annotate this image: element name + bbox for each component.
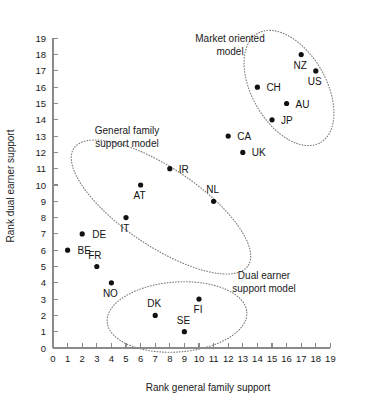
data-point-au bbox=[284, 101, 289, 106]
cluster-label-general-family-support: General familysupport model bbox=[95, 125, 159, 149]
axis-group bbox=[53, 38, 330, 348]
y-tick-label: 6 bbox=[41, 245, 46, 256]
y-tick-label: 3 bbox=[41, 294, 46, 305]
y-tick-label: 18 bbox=[35, 49, 46, 60]
data-point-label-no: NO bbox=[103, 288, 118, 299]
data-point-fi bbox=[196, 297, 201, 302]
data-point-ir bbox=[167, 166, 172, 171]
data-point-nl bbox=[211, 199, 216, 204]
x-axis-title: Rank general family support bbox=[146, 382, 271, 393]
data-point-label-au: AU bbox=[296, 99, 310, 110]
y-tick-label: 11 bbox=[36, 163, 46, 174]
y-tick-label: 0 bbox=[41, 343, 46, 354]
data-point-ca bbox=[226, 134, 231, 139]
data-point-label-fr: FR bbox=[88, 250, 101, 261]
y-tick-label: 17 bbox=[35, 65, 46, 76]
y-tick-label: 1 bbox=[41, 326, 46, 337]
y-tick-label: 7 bbox=[41, 228, 46, 239]
data-point-nz bbox=[299, 52, 304, 57]
x-tick-label: 14 bbox=[252, 353, 263, 364]
cluster-label-market-oriented: Market orientedmodel bbox=[195, 33, 264, 57]
y-tick-label: 10 bbox=[35, 180, 46, 191]
x-tick-label: 11 bbox=[209, 353, 219, 364]
y-tick-label: 13 bbox=[35, 131, 46, 142]
x-tick-label: 2 bbox=[80, 353, 85, 364]
y-tick-label: 19 bbox=[35, 33, 46, 44]
y-tick-label: 16 bbox=[35, 82, 46, 93]
data-point-fr bbox=[94, 264, 99, 269]
data-point-label-jp: JP bbox=[281, 115, 293, 126]
x-tick-label: 3 bbox=[94, 353, 99, 364]
cluster-label-dual-earner-support: Dual earnersupport model bbox=[232, 270, 295, 294]
x-tick-label: 1 bbox=[65, 353, 70, 364]
data-point-be bbox=[65, 248, 70, 253]
data-point-label-se: SE bbox=[177, 315, 191, 326]
data-point-de bbox=[80, 231, 85, 236]
x-tick-label: 6 bbox=[138, 353, 143, 364]
y-tick-label: 2 bbox=[41, 310, 46, 321]
x-tick-label: 13 bbox=[238, 353, 249, 364]
data-point-label-nz: NZ bbox=[294, 60, 307, 71]
data-point-label-ir: IR bbox=[179, 164, 189, 175]
data-point-label-ca: CA bbox=[237, 131, 251, 142]
x-tick-label: 19 bbox=[325, 353, 336, 364]
x-tick-label: 9 bbox=[182, 353, 187, 364]
data-point-se bbox=[182, 329, 187, 334]
data-point-label-nl: NL bbox=[206, 184, 219, 195]
y-tick-label: 14 bbox=[35, 114, 46, 125]
y-tick-label: 15 bbox=[35, 98, 46, 109]
data-point-label-it: IT bbox=[121, 223, 130, 234]
x-tick-label: 0 bbox=[50, 353, 55, 364]
x-tick-label: 12 bbox=[223, 353, 234, 364]
data-point-us bbox=[313, 68, 318, 73]
data-point-dk bbox=[153, 313, 158, 318]
data-point-uk bbox=[240, 150, 245, 155]
x-tick-label: 10 bbox=[194, 353, 205, 364]
plot-canvas: 0123456789101112131415161718190123456789… bbox=[0, 0, 367, 404]
x-tick-label: 17 bbox=[296, 353, 307, 364]
data-point-label-ch: CH bbox=[266, 82, 280, 93]
x-tick-label: 7 bbox=[153, 353, 158, 364]
x-tick-label: 8 bbox=[167, 353, 172, 364]
data-point-at bbox=[138, 182, 143, 187]
data-point-label-us: US bbox=[308, 76, 322, 87]
y-tick-label: 4 bbox=[41, 277, 46, 288]
data-point-it bbox=[123, 215, 128, 220]
data-point-label-fi: FI bbox=[194, 304, 203, 315]
data-point-label-de: DE bbox=[92, 229, 106, 240]
data-point-no bbox=[109, 280, 114, 285]
data-point-jp bbox=[269, 117, 274, 122]
x-tick-label: 15 bbox=[267, 353, 278, 364]
data-point-label-at: AT bbox=[134, 190, 146, 201]
data-point-ch bbox=[255, 85, 260, 90]
y-tick-label: 9 bbox=[41, 196, 46, 207]
x-tick-label: 4 bbox=[109, 353, 114, 364]
x-tick-label: 18 bbox=[311, 353, 322, 364]
y-tick-label: 12 bbox=[35, 147, 46, 158]
y-axis-title: Rank dual earner support bbox=[5, 129, 16, 242]
y-tick-label: 8 bbox=[41, 212, 46, 223]
x-tick-label: 5 bbox=[123, 353, 128, 364]
cluster-label-group: Market orientedmodelGeneral familysuppor… bbox=[95, 33, 296, 294]
data-point-label-uk: UK bbox=[252, 147, 266, 158]
x-tick-label: 16 bbox=[281, 353, 292, 364]
data-point-label-dk: DK bbox=[147, 298, 161, 309]
scatter-plot-figure: 0123456789101112131415161718190123456789… bbox=[0, 0, 367, 404]
y-tick-label: 5 bbox=[41, 261, 46, 272]
